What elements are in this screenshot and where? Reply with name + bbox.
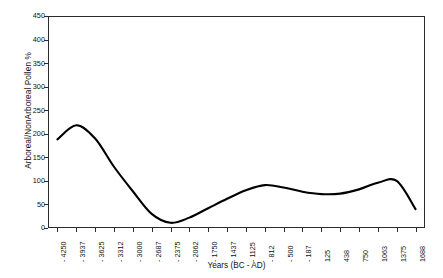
x-axis-tick-mark	[57, 228, 58, 232]
y-axis-tick-mark	[44, 40, 48, 41]
pollen-data-curve	[57, 125, 415, 223]
x-axis-tick-mark	[378, 228, 379, 232]
y-axis-tick-mark	[44, 87, 48, 88]
y-axis-tick-mark	[44, 228, 48, 229]
x-axis-tick-mark	[340, 228, 341, 232]
x-axis-tick-mark	[284, 228, 285, 232]
data-curve-layer	[48, 16, 425, 228]
x-axis-tick-label: - 187	[305, 222, 312, 262]
y-axis-tick-mark	[44, 181, 48, 182]
x-axis-tick-mark	[152, 228, 153, 232]
x-axis-tick-label: 1375	[400, 222, 407, 262]
y-axis-tick-label: 250	[21, 107, 45, 114]
x-axis-tick-mark	[321, 228, 322, 232]
y-axis-tick-label: 400	[21, 36, 45, 43]
x-axis-tick-label: 125	[324, 222, 331, 262]
x-axis-tick-mark	[95, 228, 96, 232]
x-axis-tick-mark	[114, 228, 115, 232]
x-axis-tick-mark	[171, 228, 172, 232]
x-axis-tick-label: - 2375	[174, 222, 181, 262]
y-axis-tick-label: 150	[21, 154, 45, 161]
x-axis-tick-mark	[227, 228, 228, 232]
x-axis-tick-label: - 1437	[230, 222, 237, 262]
x-axis-tick-mark	[76, 228, 77, 232]
y-axis-tick-mark	[44, 16, 48, 17]
x-axis-tick-mark	[246, 228, 247, 232]
x-axis-tick-label: - 3937	[79, 222, 86, 262]
x-axis-tick-label: - 3625	[98, 222, 105, 262]
y-axis-tick-mark	[44, 204, 48, 205]
x-axis-tick-label: - 500	[287, 222, 294, 262]
x-axis-tick-label: - 3000	[136, 222, 143, 262]
x-axis-tick-label: - 1750	[211, 222, 218, 262]
y-axis-tick-label: 300	[21, 83, 45, 90]
x-axis-title: Years (BC - AD)	[48, 261, 425, 270]
x-axis-tick-label: - 812	[268, 222, 275, 262]
x-axis-tick-mark	[133, 228, 134, 232]
y-axis-tick-label: 200	[21, 130, 45, 137]
x-axis-tick-label: 1688	[419, 222, 426, 262]
x-axis-tick-mark	[265, 228, 266, 232]
pollen-line-chart: Arboreal/NonArboreal Pollen % 0501001502…	[0, 0, 443, 278]
y-axis-tick-label: 350	[21, 60, 45, 67]
x-axis-tick-mark	[397, 228, 398, 232]
y-axis-tick-mark	[44, 157, 48, 158]
x-axis-tick-label: - 1125	[249, 222, 256, 262]
y-axis-tick-labels: 050100150200250300350400450	[19, 0, 45, 278]
x-axis-tick-label: - 2687	[155, 222, 162, 262]
y-axis-tick-label: 0	[21, 224, 45, 231]
y-axis-tick-label: 50	[21, 201, 45, 208]
x-axis-tick-label: - 3312	[117, 222, 124, 262]
x-axis-tick-label: 438	[343, 222, 350, 262]
x-axis-tick-label: - 2062	[192, 222, 199, 262]
y-axis-tick-mark	[44, 63, 48, 64]
x-axis-tick-mark	[359, 228, 360, 232]
x-axis-tick-label: 750	[362, 222, 369, 262]
y-axis-tick-mark	[44, 134, 48, 135]
x-axis-tick-mark	[208, 228, 209, 232]
y-axis-tick-label: 450	[21, 12, 45, 19]
y-axis-tick-mark	[44, 110, 48, 111]
x-axis-tick-label: - 4250	[60, 222, 67, 262]
y-axis-tick-label: 100	[21, 177, 45, 184]
x-axis-tick-mark	[189, 228, 190, 232]
x-axis-tick-mark	[416, 228, 417, 232]
x-axis-tick-mark	[302, 228, 303, 232]
x-axis-tick-label: 1063	[381, 222, 388, 262]
